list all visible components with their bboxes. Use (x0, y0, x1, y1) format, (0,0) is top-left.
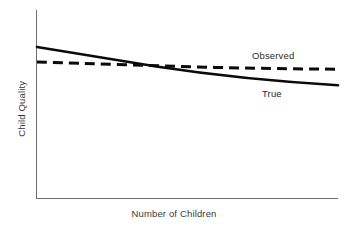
series-label-observed: Observed (252, 51, 294, 61)
x-axis-label: Number of Children (0, 209, 348, 219)
chart-figure: Number of Children Child Quality Observe… (0, 0, 348, 229)
series-label-true: True (262, 89, 282, 99)
y-axis-label: Child Quality (17, 54, 27, 164)
chart-plot-area (0, 0, 348, 229)
chart-axes (37, 10, 339, 199)
series-line-observed (37, 62, 338, 69)
